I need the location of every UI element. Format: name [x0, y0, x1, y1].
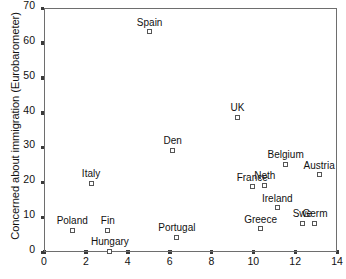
data-point-marker [235, 115, 240, 120]
data-point-marker [70, 228, 75, 233]
x-tick-label: 8 [199, 256, 223, 267]
x-tick-label: 14 [325, 256, 346, 267]
data-point-marker [317, 172, 322, 177]
y-tick-label: 60 [23, 35, 35, 46]
data-point-marker [170, 148, 175, 153]
y-tick-label: 70 [23, 0, 35, 11]
x-tick-label: 6 [158, 256, 182, 267]
y-axis-title: Concerned about immigration (Eurobaromet… [9, 1, 21, 251]
data-point-label: Portugal [158, 223, 195, 233]
scatter-plot-figure: Concerned about immigration (Eurobaromet… [0, 0, 346, 279]
data-point-marker [147, 29, 152, 34]
x-tick-label: 4 [116, 256, 140, 267]
data-point-label: UK [231, 103, 245, 113]
data-point-marker [174, 235, 179, 240]
x-tick-label: 12 [283, 256, 307, 267]
data-point-label: Neth [254, 171, 275, 181]
data-point-marker [283, 162, 288, 167]
y-tick-label: 50 [23, 70, 35, 81]
data-point-label: Swe [293, 209, 312, 219]
data-point-label: Den [163, 136, 181, 146]
data-point-marker [300, 221, 305, 226]
y-tick-label: 30 [23, 139, 35, 150]
x-tick-label: 2 [74, 256, 98, 267]
data-point-label: Belgium [268, 150, 304, 160]
data-point-label: Spain [137, 18, 163, 28]
data-point-marker [89, 181, 94, 186]
data-point-marker [107, 249, 112, 254]
y-tick-label: 10 [23, 209, 35, 220]
data-point-marker [258, 226, 263, 231]
data-point-label: Greece [244, 215, 277, 225]
data-point-marker [262, 183, 267, 188]
x-tick-label: 0 [32, 256, 56, 267]
plot-area: SpainUKDenBelgiumAustriaItalyFranceNethI… [44, 8, 337, 252]
data-point-label: Fin [101, 216, 115, 226]
data-point-marker [275, 205, 280, 210]
data-point-label: Poland [57, 216, 88, 226]
data-point-marker [105, 228, 110, 233]
data-point-label: Austria [304, 161, 335, 171]
y-tick-label: 40 [23, 105, 35, 116]
data-point-label: Hungary [91, 237, 129, 247]
y-tick-label: 20 [23, 174, 35, 185]
data-point-marker [250, 184, 255, 189]
data-point-label: Ireland [262, 194, 293, 204]
y-tick-label: 0 [29, 244, 35, 255]
data-point-label: Italy [82, 169, 100, 179]
data-point-marker [312, 221, 317, 226]
x-tick-label: 10 [241, 256, 265, 267]
